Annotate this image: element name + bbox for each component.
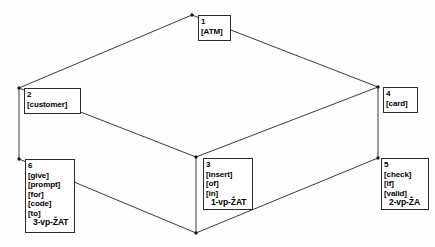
node-term-4-0: [card] — [386, 99, 415, 109]
node-term-3-1: [of] — [206, 179, 250, 189]
node-id-1: 1 — [201, 17, 228, 27]
cuboid-edge-center-front-top-to-right-rear — [196, 87, 378, 157]
node-tag-5: 2-vp-ŽA — [384, 198, 426, 208]
node-box-3[interactable]: 3[insert][of][in]1-vp-ŽAT — [203, 158, 253, 210]
node-box-5[interactable]: 5[check][if][valid]2-vp-ŽA — [381, 158, 429, 210]
node-id-3: 3 — [206, 160, 250, 170]
node-tag-6: 3-vp-ŽAT — [28, 218, 72, 228]
node-term-6-3: [code] — [28, 199, 72, 209]
node-term-1-0: [ATM] — [201, 27, 228, 37]
node-id-2: 2 — [27, 90, 78, 100]
node-term-3-0: [insert] — [206, 170, 250, 180]
vertex-dot-left-front-bottom — [17, 157, 20, 160]
node-tag-3: 1-vp-ŽAT — [206, 198, 250, 208]
vertex-dot-left-rear — [17, 86, 20, 89]
vertex-dot-top-rear — [190, 13, 193, 16]
node-id-5: 5 — [384, 160, 426, 170]
node-term-6-0: [give] — [28, 171, 72, 181]
vertex-dot-right-rear — [376, 85, 379, 88]
node-term-2-0: [customer] — [27, 100, 78, 110]
vertex-dot-center-front-top — [194, 155, 197, 158]
vertex-dot-center-front-bottom — [194, 231, 197, 234]
vertex-dot-right-front-bottom — [376, 156, 379, 159]
node-term-6-1: [prompt] — [28, 180, 72, 190]
node-id-4: 4 — [386, 89, 415, 99]
node-id-6: 6 — [28, 161, 72, 171]
cuboid-edge-left-rear-to-top-rear — [19, 15, 192, 88]
node-box-4[interactable]: 4[card] — [383, 87, 418, 113]
node-box-1[interactable]: 1[ATM] — [198, 15, 231, 41]
node-term-5-0: [check] — [384, 170, 426, 180]
diagram-canvas: 1[ATM]2[customer]4[card]3[insert][of][in… — [0, 0, 435, 247]
node-term-5-1: [if] — [384, 179, 426, 189]
node-box-6[interactable]: 6[give][prompt][for][code][to]3-vp-ŽAT — [25, 159, 75, 233]
node-term-6-2: [for] — [28, 190, 72, 200]
node-box-2[interactable]: 2[customer] — [24, 88, 81, 114]
